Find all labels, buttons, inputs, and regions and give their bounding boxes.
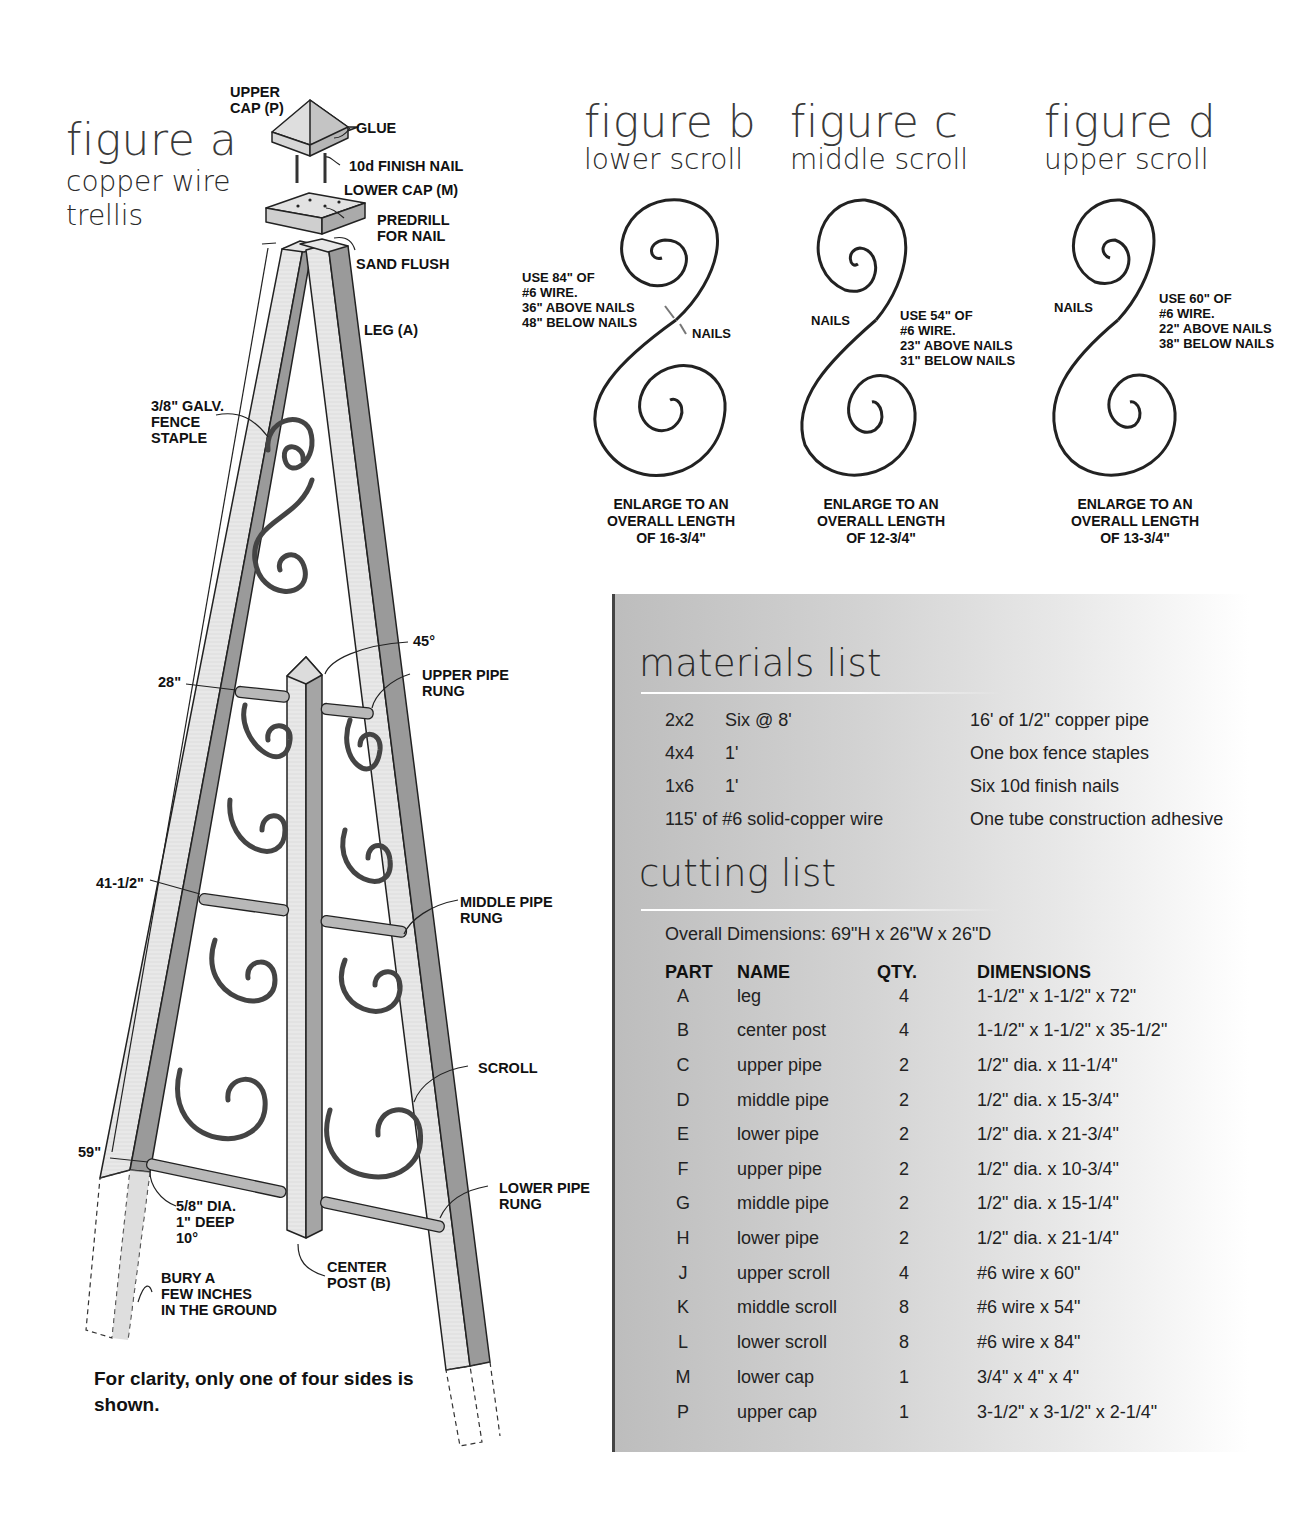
callout-upper-pipe-rung: UPPER PIPE RUNG — [422, 667, 509, 699]
row-dimensions: 1/2" dia. x 11-1/4" — [977, 1055, 1118, 1076]
material-size: 2x2 — [665, 710, 694, 731]
materials-list-heading: materials list — [639, 642, 882, 685]
figure-b-subtitle: lower scroll — [584, 144, 743, 176]
figure-c-note: USE 54" OF #6 WIRE. 23" ABOVE NAILS 31" … — [900, 308, 1015, 368]
row-name: lower pipe — [737, 1228, 819, 1249]
row-qty: 2 — [879, 1193, 929, 1214]
material-right-item: 16' of 1/2" copper pipe — [970, 710, 1149, 731]
material-right-item: One box fence staples — [970, 743, 1149, 764]
row-name: upper cap — [737, 1402, 817, 1423]
row-qty: 8 — [879, 1297, 929, 1318]
row-part: G — [665, 1193, 701, 1214]
row-name: upper scroll — [737, 1263, 830, 1284]
row-part: M — [665, 1367, 701, 1388]
column-part: PART — [665, 962, 713, 983]
callout-lower-cap: LOWER CAP (M) — [344, 182, 458, 198]
row-qty: 2 — [879, 1055, 929, 1076]
upper-scroll-drawing — [1054, 200, 1175, 475]
row-dimensions: #6 wire x 84" — [977, 1332, 1080, 1353]
row-name: middle scroll — [737, 1297, 837, 1318]
cutting-row: K middle scroll 8 #6 wire x 54" — [665, 1297, 1304, 1321]
row-name: upper pipe — [737, 1055, 822, 1076]
cutting-row: D middle pipe 2 1/2" dia. x 15-3/4" — [665, 1090, 1304, 1114]
figure-a-title: figure a — [66, 118, 237, 162]
lower-cap-drawing — [266, 193, 365, 234]
row-dimensions: #6 wire x 54" — [977, 1297, 1080, 1318]
cutting-row: G middle pipe 2 1/2" dia. x 15-1/4" — [665, 1193, 1304, 1217]
cutting-row: F upper pipe 2 1/2" dia. x 10-3/4" — [665, 1159, 1304, 1183]
cutting-row: J upper scroll 4 #6 wire x 60" — [665, 1263, 1304, 1287]
row-part: K — [665, 1297, 701, 1318]
figure-a-caption: For clarity, only one of four sides is s… — [94, 1366, 454, 1418]
row-name: middle pipe — [737, 1090, 829, 1111]
row-qty: 2 — [879, 1228, 929, 1249]
row-dimensions: 1/2" dia. x 15-1/4" — [977, 1193, 1119, 1214]
callout-scroll: SCROLL — [478, 1060, 538, 1076]
middle-scroll-drawing — [802, 200, 915, 475]
lists-panel: materials list 2x2 Six @ 8' 16' of 1/2" … — [612, 594, 1304, 1452]
row-part: J — [665, 1263, 701, 1284]
row-dimensions: 1-1/2" x 1-1/2" x 35-1/2" — [977, 1020, 1167, 1041]
callout-angle-45: 45° — [413, 633, 435, 649]
cutting-row: B center post 4 1-1/2" x 1-1/2" x 35-1/2… — [665, 1020, 1304, 1044]
figure-b-enlarge: ENLARGE TO AN OVERALL LENGTH OF 16-3/4" — [586, 496, 756, 547]
cutting-row: P upper cap 1 3-1/2" x 3-1/2" x 2-1/4" — [665, 1402, 1304, 1426]
row-part: A — [665, 986, 701, 1007]
row-qty: 1 — [879, 1402, 929, 1423]
dimension-middle: 41-1/2" — [96, 875, 144, 891]
material-amount: 1' — [725, 776, 738, 797]
callout-hole-spec: 5/8" DIA. 1" DEEP 10° — [176, 1198, 236, 1246]
callout-predrill: PREDRILL FOR NAIL — [377, 212, 450, 244]
cutting-row: C upper pipe 2 1/2" dia. x 11-1/4" — [665, 1055, 1304, 1079]
row-part: P — [665, 1402, 701, 1423]
figure-a-subtitle-line1: copper wire — [66, 166, 231, 198]
row-name: upper pipe — [737, 1159, 822, 1180]
overall-dimensions: Overall Dimensions: 69"H x 26"W x 26"D — [665, 924, 991, 945]
row-name: lower cap — [737, 1367, 814, 1388]
dimension-upper: 28" — [158, 674, 181, 690]
row-name: center post — [737, 1020, 826, 1041]
row-name: leg — [737, 986, 761, 1007]
row-dimensions: 1/2" dia. x 21-1/4" — [977, 1228, 1119, 1249]
figure-d-note: USE 60" OF #6 WIRE. 22" ABOVE NAILS 38" … — [1159, 291, 1274, 351]
figure-a-subtitle-line2: trellis — [66, 200, 143, 232]
row-part: E — [665, 1124, 701, 1145]
callout-glue: GLUE — [356, 120, 396, 136]
material-right-item: Six 10d finish nails — [970, 776, 1119, 797]
row-name: lower scroll — [737, 1332, 827, 1353]
column-dimensions: DIMENSIONS — [977, 962, 1091, 983]
row-dimensions: 3-1/2" x 3-1/2" x 2-1/4" — [977, 1402, 1157, 1423]
materials-row: 115' of #6 solid-copper wire One tube co… — [665, 809, 1304, 835]
row-dimensions: 3/4" x 4" x 4" — [977, 1367, 1079, 1388]
row-dimensions: 1/2" dia. x 15-3/4" — [977, 1090, 1119, 1111]
callout-bury: BURY A FEW INCHES IN THE GROUND — [161, 1270, 277, 1318]
row-part: F — [665, 1159, 701, 1180]
material-size: 1x6 — [665, 776, 694, 797]
figure-c-enlarge: ENLARGE TO AN OVERALL LENGTH OF 12-3/4" — [796, 496, 966, 547]
cutting-row: A leg 4 1-1/2" x 1-1/2" x 72" — [665, 986, 1304, 1010]
callout-upper-cap: UPPER CAP (P) — [230, 84, 284, 116]
row-dimensions: 1/2" dia. x 10-3/4" — [977, 1159, 1119, 1180]
row-qty: 4 — [879, 1263, 929, 1284]
figure-b-title: figure b — [584, 100, 756, 144]
callout-middle-pipe-rung: MIDDLE PIPE RUNG — [460, 894, 553, 926]
row-dimensions: #6 wire x 60" — [977, 1263, 1080, 1284]
row-dimensions: 1-1/2" x 1-1/2" x 72" — [977, 986, 1136, 1007]
row-part: H — [665, 1228, 701, 1249]
material-right-item: One tube construction adhesive — [970, 809, 1223, 830]
figure-c-title: figure c — [790, 100, 958, 144]
row-name: middle pipe — [737, 1193, 829, 1214]
upper-cap-drawing — [272, 100, 358, 156]
figure-d-subtitle: upper scroll — [1044, 144, 1209, 176]
column-qty: QTY. — [877, 962, 917, 983]
cutting-list-rule — [641, 909, 1001, 911]
materials-row: 2x2 Six @ 8' 16' of 1/2" copper pipe — [665, 710, 1304, 736]
row-part: D — [665, 1090, 701, 1111]
callout-lower-pipe-rung: LOWER PIPE RUNG — [499, 1180, 590, 1212]
row-qty: 2 — [879, 1090, 929, 1111]
material-size: 4x4 — [665, 743, 694, 764]
column-name: NAME — [737, 962, 790, 983]
cutting-list-header: PART NAME QTY. DIMENSIONS — [665, 962, 1304, 986]
cutting-row: L lower scroll 8 #6 wire x 84" — [665, 1332, 1304, 1356]
row-part: C — [665, 1055, 701, 1076]
